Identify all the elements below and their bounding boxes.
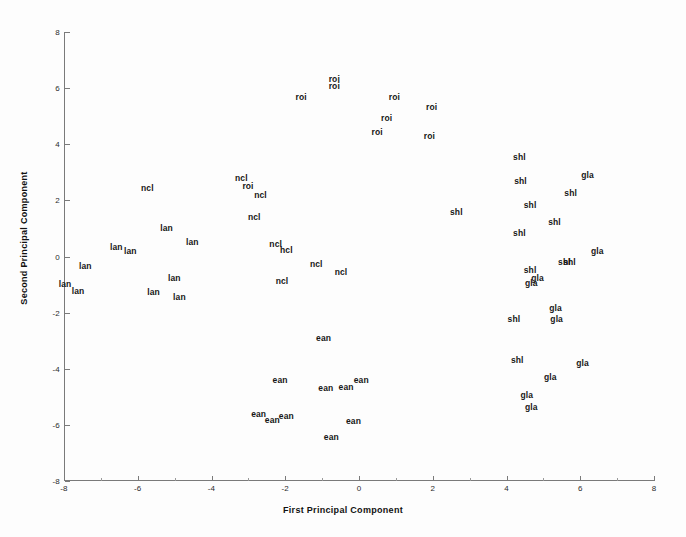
x-tick-label: -4 bbox=[208, 484, 216, 493]
data-point-label-gla: gla bbox=[550, 314, 563, 324]
data-point-label-shl: shl bbox=[524, 200, 537, 210]
data-point-label-gla: gla bbox=[581, 170, 594, 180]
data-point-label-ean: ean bbox=[316, 333, 331, 343]
data-point-label-ean: ean bbox=[318, 383, 333, 393]
y-tick-mark bbox=[65, 369, 70, 370]
y-tick-label: -6 bbox=[44, 420, 60, 429]
x-minor-tick-mark bbox=[248, 478, 249, 481]
data-point-label-ean: ean bbox=[324, 432, 339, 442]
y-tick-mark bbox=[65, 481, 70, 482]
data-point-label-roi: roi bbox=[424, 131, 435, 141]
data-point-label-shl: shl bbox=[513, 152, 526, 162]
data-point-label-roi: roi bbox=[296, 92, 307, 102]
x-minor-tick-mark bbox=[175, 478, 176, 481]
x-tick-label: -6 bbox=[134, 484, 142, 493]
y-tick-mark bbox=[65, 425, 70, 426]
data-point-label-ncl: ncl bbox=[310, 259, 323, 269]
x-minor-tick-mark bbox=[101, 478, 102, 481]
x-minor-tick-mark bbox=[543, 478, 544, 481]
data-point-label-ncl: ncl bbox=[248, 212, 261, 222]
data-point-label-lan: lan bbox=[186, 237, 199, 247]
data-point-label-lan: lan bbox=[110, 242, 123, 252]
x-tick-label: 4 bbox=[504, 484, 509, 493]
data-point-label-roi: roi bbox=[426, 102, 437, 112]
data-point-label-shl: shl bbox=[513, 228, 526, 238]
x-tick-mark bbox=[507, 476, 508, 481]
x-tick-mark bbox=[359, 476, 360, 481]
x-tick-label: -2 bbox=[281, 484, 289, 493]
y-tick-label: 2 bbox=[44, 196, 60, 205]
x-minor-tick-mark bbox=[617, 478, 618, 481]
y-tick-mark bbox=[65, 144, 70, 145]
data-point-label-gla: gla bbox=[576, 358, 589, 368]
x-axis-title: First Principal Component bbox=[0, 505, 686, 515]
data-point-label-shl: shl bbox=[548, 217, 561, 227]
data-point-label-ncl: ncl bbox=[141, 183, 154, 193]
data-point-label-ean: ean bbox=[273, 375, 288, 385]
data-point-label-lan: lan bbox=[72, 286, 85, 296]
y-tick-mark bbox=[65, 32, 70, 33]
x-tick-label: 6 bbox=[578, 484, 583, 493]
data-point-label-ncl: ncl bbox=[276, 276, 289, 286]
y-tick-mark bbox=[65, 313, 70, 314]
y-tick-label: -8 bbox=[44, 477, 60, 486]
y-tick-label: -2 bbox=[44, 308, 60, 317]
data-point-label-shl: shl bbox=[511, 355, 524, 365]
y-axis-title: Second Principal Component bbox=[19, 118, 29, 358]
data-point-label-gla: gla bbox=[591, 246, 604, 256]
data-point-label-shl: shl bbox=[563, 257, 576, 267]
data-point-label-ncl: ncl bbox=[335, 267, 348, 277]
data-point-label-shl: shl bbox=[508, 314, 521, 324]
x-minor-tick-mark bbox=[396, 478, 397, 481]
data-point-label-ean: ean bbox=[265, 415, 280, 425]
data-point-label-ean: ean bbox=[346, 416, 361, 426]
data-point-label-lan: lan bbox=[168, 273, 181, 283]
data-point-label-lan: lan bbox=[147, 287, 160, 297]
x-tick-mark bbox=[212, 476, 213, 481]
data-point-label-ncl: ncl bbox=[254, 190, 267, 200]
data-point-label-hcl: hcl bbox=[280, 245, 293, 255]
x-tick-mark bbox=[433, 476, 434, 481]
y-tick-label: 8 bbox=[44, 28, 60, 37]
data-point-label-roi: roi bbox=[389, 92, 400, 102]
data-point-label-roi: roi bbox=[371, 127, 382, 137]
data-point-label-lan: lan bbox=[124, 246, 137, 256]
y-tick-mark bbox=[65, 88, 70, 89]
scatter-plot-figure: -8-6-4-202468 -8-6-4-202468 roiroiroiroi… bbox=[0, 0, 686, 537]
data-point-label-shl: shl bbox=[450, 207, 463, 217]
x-minor-tick-mark bbox=[470, 478, 471, 481]
x-tick-mark bbox=[654, 476, 655, 481]
data-point-label-gla: gla bbox=[544, 372, 557, 382]
x-tick-mark bbox=[285, 476, 286, 481]
data-point-label-gla: gla bbox=[525, 402, 538, 412]
data-point-label-ean: ean bbox=[354, 375, 369, 385]
x-tick-label: -8 bbox=[60, 484, 68, 493]
data-point-label-roi: roi bbox=[381, 113, 392, 123]
data-point-label-roi: roi bbox=[329, 81, 340, 91]
y-tick-mark bbox=[65, 257, 70, 258]
y-tick-label: 6 bbox=[44, 84, 60, 93]
data-point-label-ean: ean bbox=[339, 382, 354, 392]
data-point-label-shl: shl bbox=[564, 188, 577, 198]
x-tick-label: 8 bbox=[652, 484, 657, 493]
data-point-label-ean: ean bbox=[279, 411, 294, 421]
x-minor-tick-mark bbox=[322, 478, 323, 481]
x-tick-mark bbox=[580, 476, 581, 481]
data-point-label-gla: gla bbox=[549, 303, 562, 313]
data-point-label-lan: lan bbox=[160, 223, 173, 233]
data-point-label-lan: lan bbox=[173, 292, 186, 302]
x-tick-label: 0 bbox=[357, 484, 362, 493]
data-point-label-lan: lan bbox=[79, 261, 92, 271]
y-tick-label: 0 bbox=[44, 252, 60, 261]
y-tick-label: 4 bbox=[44, 140, 60, 149]
y-tick-label: -4 bbox=[44, 364, 60, 373]
x-tick-mark bbox=[138, 476, 139, 481]
data-point-label-ncl: ncl bbox=[235, 173, 248, 183]
data-point-label-gla: gla bbox=[520, 390, 533, 400]
data-point-label-lan: lan bbox=[59, 279, 72, 289]
y-tick-mark bbox=[65, 200, 70, 201]
x-tick-label: 2 bbox=[430, 484, 435, 493]
data-point-label-shl: shl bbox=[514, 176, 527, 186]
data-point-label-gla: gla bbox=[525, 278, 538, 288]
